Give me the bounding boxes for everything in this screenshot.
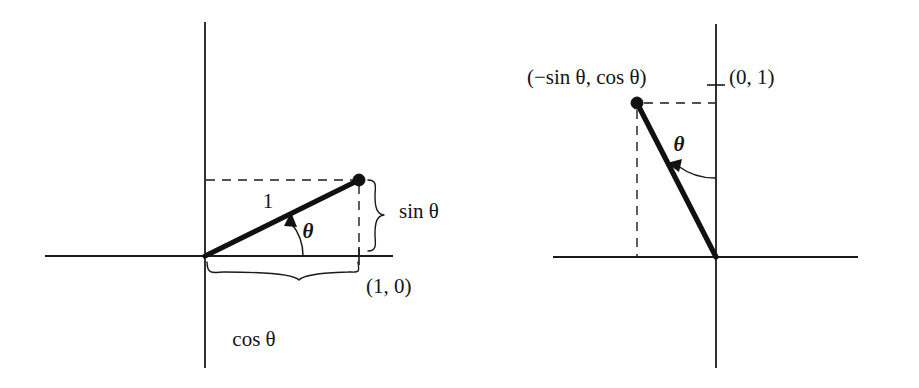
left-unit-vector [205, 180, 359, 256]
left-sin-label: sin θ [399, 199, 439, 223]
left-angle-arc [291, 223, 303, 256]
left-theta-label: θ [303, 219, 314, 243]
figure-canvas: 1 θ (1, 0) sin θ cos θ (−sin θ, cos θ) [0, 0, 919, 388]
left-radius-label: 1 [263, 189, 274, 213]
right-panel: (−sin θ, cos θ) (0, 1) θ [527, 24, 858, 368]
left-point-label: (1, 0) [366, 274, 412, 298]
left-cos-brace [207, 262, 359, 280]
right-rotated-vector [637, 103, 716, 257]
left-cos-label: cos θ [232, 327, 275, 351]
right-point-coordinates-label: (−sin θ, cos θ) [527, 65, 646, 89]
trigonometry-figure-svg: 1 θ (1, 0) sin θ cos θ (−sin θ, cos θ) [0, 0, 919, 388]
right-axis-point-label: (0, 1) [729, 65, 775, 89]
right-theta-label: θ [674, 132, 685, 156]
right-endpoint-dot [631, 97, 643, 109]
left-sin-brace [368, 180, 384, 251]
left-panel: 1 θ (1, 0) sin θ cos θ [45, 22, 439, 368]
right-angle-arc [678, 166, 716, 178]
left-endpoint-dot [353, 174, 365, 186]
